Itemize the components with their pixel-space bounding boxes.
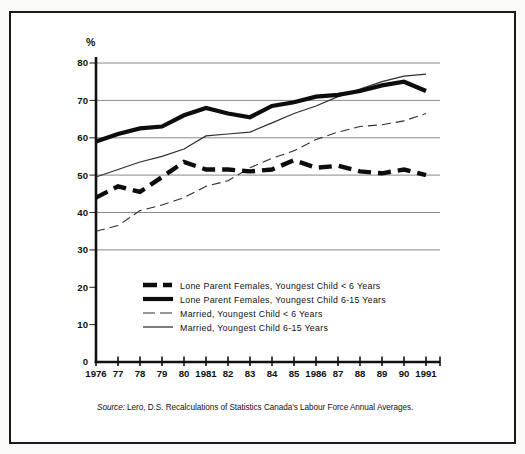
legend-line-sample-thick-solid-icon	[143, 293, 173, 305]
y-tick-label-0: 0	[83, 356, 88, 367]
legend-label: Married, Youngest Child < 6 Years	[180, 308, 323, 319]
line-chart: 0102030405060708019767778798019818283848…	[0, 0, 525, 454]
series-line-thick-dashed	[96, 160, 426, 197]
x-tick-label-1976: 1976	[85, 368, 106, 379]
y-axis-unit-label: %	[86, 36, 95, 48]
y-tick-label-50: 50	[77, 170, 88, 181]
x-tick-label-89: 89	[377, 368, 388, 379]
y-tick-label-30: 30	[77, 244, 88, 255]
x-tick-label-83: 83	[245, 368, 256, 379]
x-tick-label-85: 85	[289, 368, 300, 379]
legend-row: Lone Parent Females, Youngest Child 6-15…	[143, 293, 386, 305]
x-tick-label-78: 78	[135, 368, 146, 379]
y-tick-label-20: 20	[77, 282, 88, 293]
x-tick-label-79: 79	[157, 368, 168, 379]
y-tick-label-60: 60	[77, 132, 88, 143]
x-tick-label-1986: 1986	[305, 368, 326, 379]
legend-line-sample-thin-solid-icon	[143, 321, 173, 333]
y-tick-label-10: 10	[77, 319, 88, 330]
series-line-thick-solid	[96, 82, 426, 142]
x-tick-label-88: 88	[355, 368, 366, 379]
x-tick-label-84: 84	[267, 368, 278, 379]
series-line-thin-dashed	[96, 114, 426, 232]
source-text: Lero, D.S. Recalculations of Statistics …	[125, 403, 413, 412]
x-tick-label-87: 87	[333, 368, 344, 379]
x-tick-label-82: 82	[223, 368, 234, 379]
legend-label: Lone Parent Females, Youngest Child 6-15…	[180, 294, 386, 305]
legend-line-sample-thick-dashed-icon	[143, 279, 173, 291]
legend-row: Lone Parent Females, Youngest Child < 6 …	[143, 279, 381, 291]
x-tick-label-77: 77	[113, 368, 124, 379]
page: { "percent_label": "%", "source_line": {…	[0, 0, 525, 454]
legend-row: Married, Youngest Child 6-15 Years	[143, 321, 328, 333]
legend-label: Lone Parent Females, Youngest Child < 6 …	[180, 280, 381, 291]
y-tick-label-80: 80	[77, 57, 88, 68]
legend-label: Married, Youngest Child 6-15 Years	[180, 322, 328, 333]
x-tick-label-1991: 1991	[415, 368, 437, 379]
x-tick-label-1981: 1981	[195, 368, 217, 379]
x-tick-label-90: 90	[399, 368, 410, 379]
source-line: Source: Lero, D.S. Recalculations of Sta…	[97, 403, 413, 412]
y-tick-label-70: 70	[77, 95, 88, 106]
x-tick-label-80: 80	[179, 368, 190, 379]
y-tick-label-40: 40	[77, 207, 88, 218]
legend-row: Married, Youngest Child < 6 Years	[143, 307, 323, 319]
legend-line-sample-thin-dashed-icon	[143, 307, 173, 319]
source-prefix: Source:	[97, 403, 125, 412]
